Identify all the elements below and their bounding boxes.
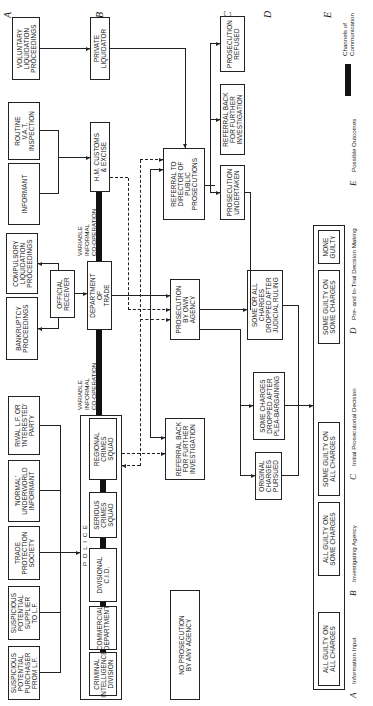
outcome-some-guilty-all: SOME GUILTY ON ALL CHARGES (318, 422, 340, 496)
official-receiver-box: OFFICIAL RECEIVER (50, 270, 75, 318)
connector (40, 490, 60, 491)
arrow-icon (249, 404, 253, 408)
outcome-all-guilty-some: ALL GUILTY ON SOME CHARGES (318, 502, 340, 576)
arrow-icon (166, 318, 170, 322)
plea-bargaining-box: SOME CHARGES DROPPED AFTER PLEA-BARGAINI… (253, 372, 285, 440)
communication-channel-bar (100, 602, 106, 606)
outcome-some-guilty-some: SOME GUILTY ON SOME CHARGES (318, 270, 340, 344)
compulsory-liquidation-box: COMPULSORY LIQUIDATION PROCEEDINGS (6, 233, 38, 294)
arrow-icon (251, 474, 255, 478)
connector (150, 169, 151, 438)
arrow-icon (161, 452, 165, 456)
arrow-icon (159, 168, 163, 172)
diagram-canvas: A B C D E VOLUNTARY LIQUIDATION PROCEEDI… (0, 0, 373, 706)
connector (58, 318, 59, 329)
bankruptcy-box: BANKRUPTCY PROCEEDINGS (6, 297, 38, 360)
informant-box: INFORMANT (8, 163, 40, 225)
legend-key-c: C (348, 474, 358, 480)
connector (40, 48, 90, 49)
hm-customs-box: H.M. CUSTOMS & EXCISE (90, 122, 110, 192)
cooperation-label-lower: VARIABLE INFORMAL CO-OPERATION (76, 363, 97, 410)
connector (282, 475, 298, 476)
suspicious-supplier-box: SUSPICIOUS POTENTIAL SUPPLIER TO L.F. (8, 586, 40, 640)
voluntary-liquidation-box: VOLUNTARY LIQUIDATION PROCEEDINGS (12, 17, 40, 80)
legend-key-b: B (348, 591, 358, 597)
connector (40, 425, 60, 426)
arrow-icon (122, 464, 126, 468)
arrow-icon (216, 118, 220, 122)
referral-dpp-box: REFERRAL TO DIRECTOR OF PUBLIC PROSECUTI… (163, 148, 205, 220)
arrow-icon (216, 42, 220, 46)
outcome-all-guilty-all: ALL GUILTY ON ALL CHARGES (318, 612, 340, 686)
police-label: P O L I C E (81, 524, 88, 566)
legend-key-e: E (348, 181, 358, 187)
connector (60, 425, 61, 673)
arrow-icon (38, 262, 42, 266)
connector (112, 295, 170, 296)
legend-label-b: Investigating Agency (350, 525, 357, 582)
communication-channel-bar (100, 650, 106, 652)
original-charges-box: ORIGINAL CHARGES PURSUED (255, 452, 282, 500)
legend-key-a: A (348, 693, 358, 699)
outcome-none-guilty: NONE GUILTY (318, 230, 340, 264)
connector (250, 192, 251, 310)
judicial-ruling-box: SOME OR ALL CHARGES DROPPED AFTER JUDICI… (247, 270, 283, 340)
serious-crimes-box: SERIOUS CRIMES SQUAD (89, 492, 117, 538)
commercial-department-box: COMMERCIAL DEPARTMENT (89, 606, 117, 650)
arrow-icon (166, 308, 170, 312)
suspicious-purchaser-box: SUSPICIOUS POTENTIAL PURCHASER FROM L.F. (8, 646, 40, 700)
dashed-connector (140, 160, 141, 466)
dashed-connector (110, 177, 128, 178)
connector (40, 612, 60, 613)
connector (110, 48, 185, 49)
connector (200, 329, 240, 330)
divisional-cid-box: DIVISIONAL C.I.D. (89, 548, 117, 602)
dashed-connector (128, 309, 170, 310)
communication-channel-bar (100, 480, 106, 492)
connector (58, 263, 59, 270)
legend-label-e: Possible Outcomes (350, 119, 357, 172)
connector (240, 329, 241, 476)
cooperation-label-upper: VARIABLE INFORMAL CO-OPERATION (76, 209, 97, 256)
connector (298, 305, 299, 476)
dashed-connector (128, 178, 129, 310)
legend-key-d: D (348, 328, 358, 335)
connector (40, 193, 58, 194)
communication-channel-bar (100, 538, 106, 548)
prosecution-own-agency-box: PROSECUTION BY OWN AGENCY (170, 279, 200, 340)
trade-protection-box: TRADE PROTECTION SOCIETY (8, 526, 40, 580)
connector (283, 305, 298, 306)
arrow-icon (166, 294, 170, 298)
connector (185, 48, 186, 148)
connector (58, 130, 59, 194)
arrow-icon (216, 191, 220, 195)
referral-back-dpp-box: REFERRAL BACK FOR FURTHER INVESTIGATION (220, 84, 245, 155)
legend-label-a: Information Input (350, 638, 357, 684)
connector (40, 130, 58, 131)
connector (200, 309, 247, 310)
communication-channel-legend-swatch (345, 64, 351, 96)
arrow-icon (161, 436, 165, 440)
arrow-icon (243, 308, 247, 312)
no-prosecution-box: NO PROSECUTION BY ANY AGENCY (170, 590, 200, 700)
normal-informant-box: 'NORMAL' UNDERWORLD INFORMANT (8, 460, 40, 522)
routine-vat-box: ROUTINE V.A.T. INSPECTION (8, 102, 40, 160)
stage-label-e: E (322, 12, 333, 18)
dashed-connector (122, 453, 165, 454)
rival-lf-box: RIVAL L.F. OR 'INTERESTED' PARTY (8, 396, 40, 455)
arrow-icon (159, 158, 163, 162)
criminal-intelligence-box: CRIMINAL INTELLIGENCE DIVISION (89, 652, 117, 696)
referral-back-police-box: REFERRAL BACK FOR FURTHER INVESTIGATION (165, 418, 205, 480)
arrow-icon (38, 327, 42, 331)
regional-crimes-box: REGIONAL CRIMES SQUAD (89, 418, 117, 480)
connector (40, 672, 60, 673)
legend-label-c: Initial Prosecutorial Decision (350, 388, 357, 466)
private-liquidator-box: PRIVATE LIQUIDATOR (90, 17, 110, 80)
prosecution-undertaken-box: PROSECUTION UNDERTAKEN (220, 165, 245, 220)
stage-label-d: D (262, 11, 273, 18)
prosecution-refused-box: PROSECUTION REFUSED (220, 16, 245, 72)
legend-label-channels: Channels of Communication (342, 13, 355, 56)
arrow-icon (183, 144, 187, 148)
department-of-trade-box: DEPARTMENT OF TRADE (87, 261, 112, 330)
legend-label-d: Pre- and In-Trial Decision Making (350, 228, 357, 320)
